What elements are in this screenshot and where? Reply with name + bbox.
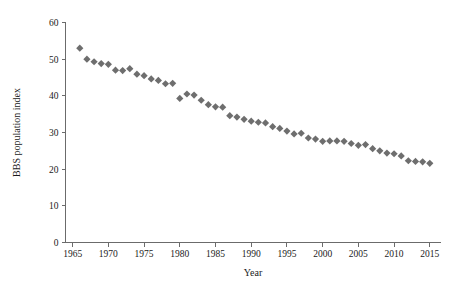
data-point-marker [126,65,133,72]
data-point-marker [305,134,312,141]
x-tick-label: 1995 [277,249,296,259]
data-point-marker [369,145,376,152]
data-point-marker [112,67,119,74]
data-point-marker [290,130,297,137]
data-point-marker [390,150,397,157]
data-point-marker [276,125,283,132]
data-point-marker [348,140,355,147]
data-point-marker [333,137,340,144]
x-axis-title: Year [244,267,263,278]
data-point-marker [198,97,205,104]
data-point-marker [176,95,183,102]
data-point-marker [362,141,369,148]
x-tick-label: 1970 [99,249,118,259]
x-tick-label: 1985 [206,249,225,259]
data-series-group [76,45,433,167]
data-point-marker [319,138,326,145]
y-tick-label: 0 [54,238,59,248]
data-point-marker [398,152,405,159]
data-point-marker [405,157,412,164]
data-point-marker [83,56,90,63]
data-point-marker [140,72,147,79]
data-point-marker [98,60,105,67]
data-point-marker [148,75,155,82]
data-point-marker [190,92,197,99]
x-tick-label: 2000 [313,249,332,259]
x-tick-label: 1975 [135,249,154,259]
x-tick-label: 2005 [349,249,368,259]
y-tick-label: 40 [49,91,59,101]
data-point-marker [269,123,276,130]
chart-figure: 0102030405060196519701975198019851990199… [0,0,463,297]
data-point-marker [326,137,333,144]
data-point-marker [212,103,219,110]
data-point-marker [162,80,169,87]
data-point-marker [133,71,140,78]
data-point-marker [205,101,212,108]
data-point-marker [340,138,347,145]
x-tick-label: 1990 [242,249,261,259]
x-tick-label: 2010 [385,249,404,259]
data-point-marker [355,142,362,149]
data-point-marker [219,104,226,111]
y-tick-label: 20 [49,165,59,175]
data-point-marker [376,147,383,154]
data-point-marker [226,112,233,119]
x-tick-label: 1965 [63,249,82,259]
data-point-marker [419,158,426,165]
data-point-marker [298,130,305,137]
data-point-marker [169,80,176,87]
scatter-plot: 0102030405060196519701975198019851990199… [0,0,463,297]
data-point-marker [426,160,433,167]
data-point-marker [155,77,162,84]
y-tick-label: 60 [49,18,59,28]
data-point-marker [105,61,112,68]
data-point-marker [119,67,126,74]
data-point-marker [183,90,190,97]
y-tick-label: 50 [49,55,59,65]
y-tick-label: 30 [49,128,59,138]
data-point-marker [262,119,269,126]
data-point-marker [383,149,390,156]
y-tick-label: 10 [49,201,59,211]
data-point-marker [412,158,419,165]
data-point-marker [90,58,97,65]
y-axis-title: BBS population index [11,88,22,177]
data-point-marker [233,114,240,121]
data-point-marker [248,118,255,125]
data-point-marker [283,127,290,134]
x-tick-label: 2015 [420,249,439,259]
data-point-marker [255,119,262,126]
data-point-marker [312,136,319,143]
data-point-marker [240,116,247,123]
data-point-marker [76,45,83,52]
x-tick-label: 1980 [170,249,189,259]
